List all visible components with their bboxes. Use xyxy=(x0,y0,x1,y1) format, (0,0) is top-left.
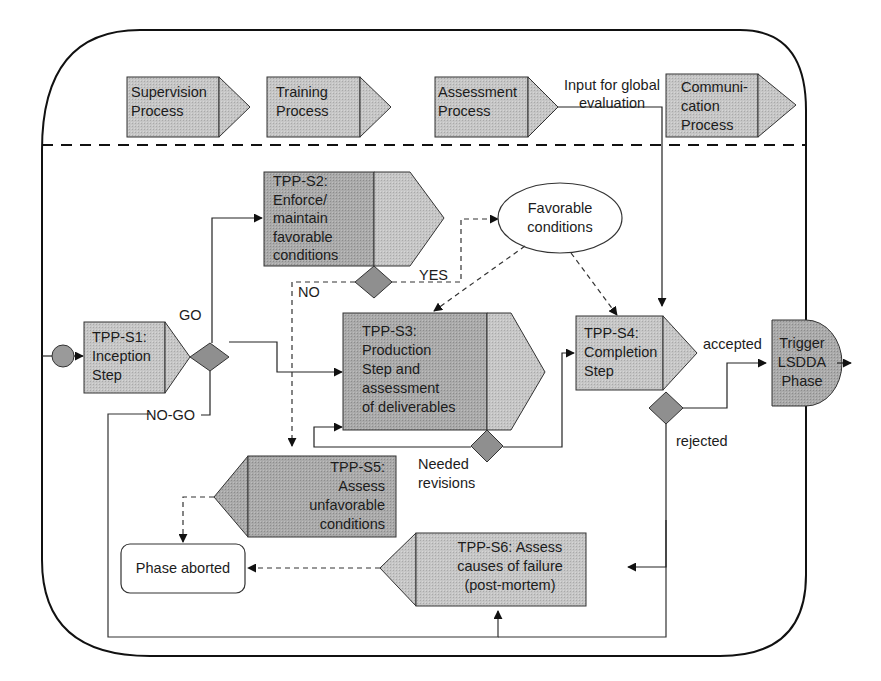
step-s6-label: TPP-S6: Assess causes of failure (post-m… xyxy=(440,538,580,595)
start-node xyxy=(52,345,74,367)
rejected-label: rejected xyxy=(676,432,728,451)
rejected-line xyxy=(628,424,666,567)
step-s3-label: TPP-S3: Production Step and assessment o… xyxy=(362,322,456,417)
input-global-evaluation-label: Input for global evaluation xyxy=(556,76,668,112)
step-s5-label: TPP-S5: Assess unfavorable conditions xyxy=(250,458,385,534)
assessment-process-label: Assessment Process xyxy=(438,83,517,121)
no-label: NO xyxy=(298,283,320,302)
favorable-to-s4-line xyxy=(571,253,617,315)
supervision-process-label: Supervision Process xyxy=(131,83,207,121)
s3-decision-diamond xyxy=(471,430,503,462)
yes-label: YES xyxy=(419,266,448,285)
step-s2-label: TPP-S2: Enforce/ maintain favorable cond… xyxy=(273,172,338,265)
go-label: GO xyxy=(179,306,202,325)
s5-to-aborted-line xyxy=(183,497,214,542)
phase-aborted-label: Phase aborted xyxy=(121,559,245,578)
s1-decision-diamond xyxy=(190,343,229,371)
accepted-line xyxy=(683,363,766,408)
s4-decision-diamond xyxy=(649,392,683,424)
no-go-label: NO-GO xyxy=(146,406,195,425)
trigger-lsdda-label: Trigger LSDDA Phase xyxy=(770,334,834,391)
no-go-line xyxy=(201,371,210,415)
go-line-s3 xyxy=(229,342,342,372)
training-process-label: Training Process xyxy=(276,83,328,121)
s2-decision-diamond xyxy=(355,266,392,298)
favorable-conditions-label: Favorable conditions xyxy=(510,199,610,237)
communication-process-label: Communi- cation Process xyxy=(681,78,748,135)
accepted-label: accepted xyxy=(703,335,762,354)
go-line-s2 xyxy=(212,218,262,343)
needed-revisions-label: Needed revisions xyxy=(418,455,475,493)
step-s4-label: TPP-S4: Completion Step xyxy=(584,324,657,381)
step-s1-label: TPP-S1: Inception Step xyxy=(92,328,151,385)
